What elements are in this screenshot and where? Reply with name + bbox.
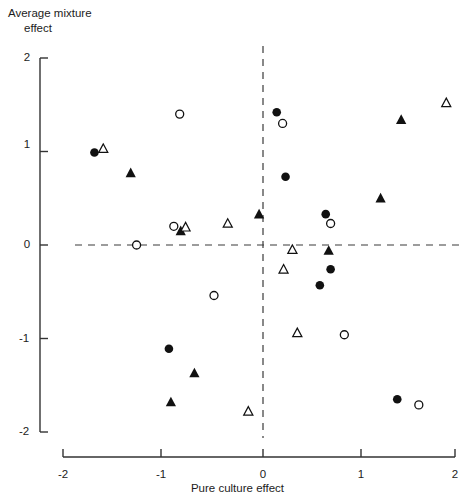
data-point-open-triangle [279,265,288,274]
data-point-filled-circle [393,395,402,404]
data-point-filled-triangle [189,368,199,378]
data-point-filled-circle [272,108,281,117]
data-point-open-circle [327,219,335,227]
data-point-open-circle [279,119,287,127]
data-point-filled-circle [326,265,335,274]
data-point-filled-circle [321,210,330,219]
data-point-filled-circle [165,344,174,353]
data-point-filled-triangle [396,114,406,124]
data-point-filled-circle [281,172,290,181]
y-axis [40,58,48,432]
data-point-filled-triangle [376,193,386,203]
data-point-open-circle [176,110,184,118]
data-point-filled-circle [90,148,99,157]
data-point-open-triangle [181,222,190,231]
data-point-open-circle [415,401,423,409]
data-point-filled-triangle [324,245,334,255]
plot-canvas [0,0,475,504]
x-axis [63,449,455,457]
data-point-open-triangle [99,144,108,153]
data-point-open-triangle [244,407,253,416]
data-point-filled-triangle [254,209,264,219]
data-point-open-triangle [293,328,302,337]
data-point-open-triangle [288,245,297,254]
data-point-filled-circle [316,281,325,290]
data-point-open-triangle [442,98,451,107]
data-point-open-circle [210,291,218,299]
data-point-open-circle [170,222,178,230]
scatter-plot-figure: Average mixtureeffect Pure culture effec… [0,0,475,504]
data-point-open-triangle [223,219,232,228]
data-point-open-circle [340,331,348,339]
data-point-open-circle [133,241,141,249]
data-point-filled-triangle [166,397,176,407]
data-point-filled-triangle [126,168,136,178]
data-markers-group [90,98,451,415]
